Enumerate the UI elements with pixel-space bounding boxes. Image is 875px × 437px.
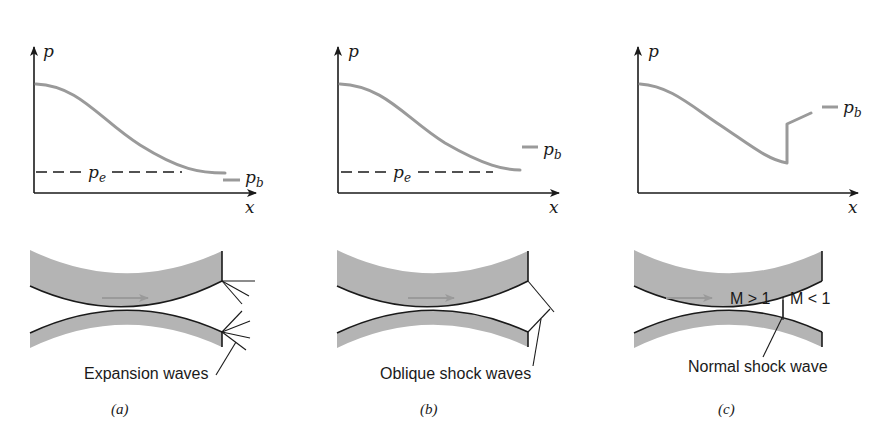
y-axis-label: p bbox=[648, 41, 659, 61]
pe-label: pe bbox=[88, 162, 106, 185]
x-axis-label: x bbox=[848, 197, 858, 217]
pb-label: pb bbox=[843, 97, 862, 120]
pe-label: pe bbox=[393, 162, 411, 185]
y-axis-label: p bbox=[348, 41, 359, 61]
panel-b-plot: p x pe pb bbox=[338, 41, 562, 217]
panel-c-nozzle: M > 1 M < 1 Normal shock wave (c) bbox=[634, 250, 831, 418]
pb-label: pb bbox=[245, 167, 264, 190]
annotation-leader bbox=[216, 342, 236, 375]
lower-wall bbox=[30, 310, 222, 348]
y-axis-label: p bbox=[43, 41, 54, 61]
pressure-curve bbox=[340, 84, 520, 170]
panel-a-plot: p x pe pb bbox=[34, 41, 264, 217]
supersonic-label: M > 1 bbox=[730, 290, 771, 307]
oblique-shock-waves-label: Oblique shock waves bbox=[380, 365, 531, 382]
pb-label: pb bbox=[543, 139, 562, 162]
nozzle-flow-figure: p x pe pb p x pe pb p x pb bbox=[0, 0, 875, 437]
pressure-curve bbox=[36, 84, 225, 173]
lower-wall bbox=[634, 310, 822, 348]
caption-c: (c) bbox=[718, 401, 735, 418]
panel-c-plot: p x pb bbox=[638, 41, 862, 217]
panel-b-nozzle: Oblique shock waves (b) bbox=[337, 250, 554, 418]
expansion-fan-upper bbox=[222, 281, 255, 304]
pressure-curve-with-shock bbox=[640, 84, 811, 163]
expansion-waves-label: Expansion waves bbox=[84, 365, 209, 382]
caption-b: (b) bbox=[420, 401, 438, 418]
oblique-shock-upper bbox=[528, 281, 554, 312]
x-axis-label: x bbox=[245, 197, 255, 217]
caption-a: (a) bbox=[111, 401, 129, 418]
lower-wall bbox=[337, 310, 528, 348]
expansion-fan-lower bbox=[222, 311, 250, 350]
panel-a-nozzle: Expansion waves (a) bbox=[30, 250, 255, 418]
subsonic-label: M < 1 bbox=[790, 290, 831, 307]
x-axis-label: x bbox=[549, 197, 559, 217]
normal-shock-wave-label: Normal shock wave bbox=[688, 358, 828, 375]
